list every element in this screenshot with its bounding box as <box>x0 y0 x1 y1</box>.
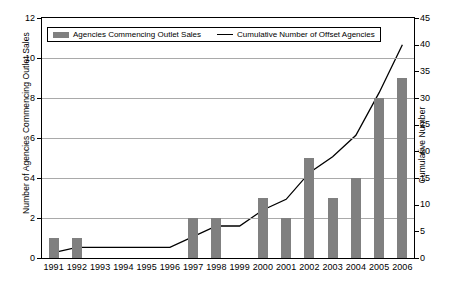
y-axis-right-tick-mark <box>415 178 419 179</box>
y-axis-right-tick-label: 5 <box>420 227 444 236</box>
y-axis-right-tick-mark <box>415 205 419 206</box>
y-axis-right-tick-mark <box>415 231 419 232</box>
bar <box>351 178 361 258</box>
legend-line-label: Cumulative Number of Offset Agencies <box>237 30 375 39</box>
y-axis-right-tick-mark <box>415 125 419 126</box>
y-axis-right-tick-mark <box>415 18 419 19</box>
bar <box>211 218 221 258</box>
y-axis-left-tick-label: 2 <box>11 214 35 223</box>
y-axis-right-tick-mark <box>415 45 419 46</box>
y-axis-left-tick-label: 6 <box>11 134 35 143</box>
y-axis-right-tick-label: 25 <box>420 120 444 129</box>
y-axis-right-tick-mark <box>415 258 419 259</box>
legend-swatch-icon <box>53 32 69 38</box>
bar <box>304 158 314 258</box>
y-axis-left-tick-label: 10 <box>11 54 35 63</box>
y-axis-right-tick-label: 35 <box>420 67 444 76</box>
bar <box>72 238 82 258</box>
bar <box>397 78 407 258</box>
legend-item-bar: Agencies Commencing Outlet Sales <box>53 30 201 39</box>
gridline <box>42 138 414 139</box>
bar <box>281 218 291 258</box>
legend-item-line: Cumulative Number of Offset Agencies <box>217 30 375 39</box>
y-axis-left-tick-label: 12 <box>11 14 35 23</box>
y-axis-right-tick-label: 0 <box>420 254 444 263</box>
y-axis-right-tick-label: 45 <box>420 14 444 23</box>
bar <box>49 238 59 258</box>
bar <box>374 98 384 258</box>
gridline <box>42 58 414 59</box>
bar <box>258 198 268 258</box>
y-axis-left-tick-label: 4 <box>11 174 35 183</box>
y-axis-left-title: Number of Agencies Commencing Outlet Sal… <box>21 8 31 238</box>
y-axis-right-tick-label: 40 <box>420 40 444 49</box>
y-axis-right-tick-label: 10 <box>420 200 444 209</box>
bar <box>328 198 338 258</box>
x-axis-tick-label: 2006 <box>387 263 417 272</box>
legend-line-icon <box>217 34 233 35</box>
chart-legend: Agencies Commencing Outlet Sales Cumulat… <box>47 27 381 42</box>
y-axis-right-tick-mark <box>415 151 419 152</box>
legend-bar-label: Agencies Commencing Outlet Sales <box>73 30 201 39</box>
y-axis-right-tick-label: 30 <box>420 94 444 103</box>
chart-container: Number of Agencies Commencing Outlet Sal… <box>0 0 455 300</box>
y-axis-right-tick-label: 20 <box>420 147 444 156</box>
bar <box>188 218 198 258</box>
gridline <box>42 98 414 99</box>
y-axis-right-tick-mark <box>415 71 419 72</box>
y-axis-right-tick-label: 15 <box>420 174 444 183</box>
y-axis-left-tick-label: 8 <box>11 94 35 103</box>
plot-area <box>41 17 415 259</box>
y-axis-left-tick-label: 0 <box>11 254 35 263</box>
y-axis-right-tick-mark <box>415 98 419 99</box>
